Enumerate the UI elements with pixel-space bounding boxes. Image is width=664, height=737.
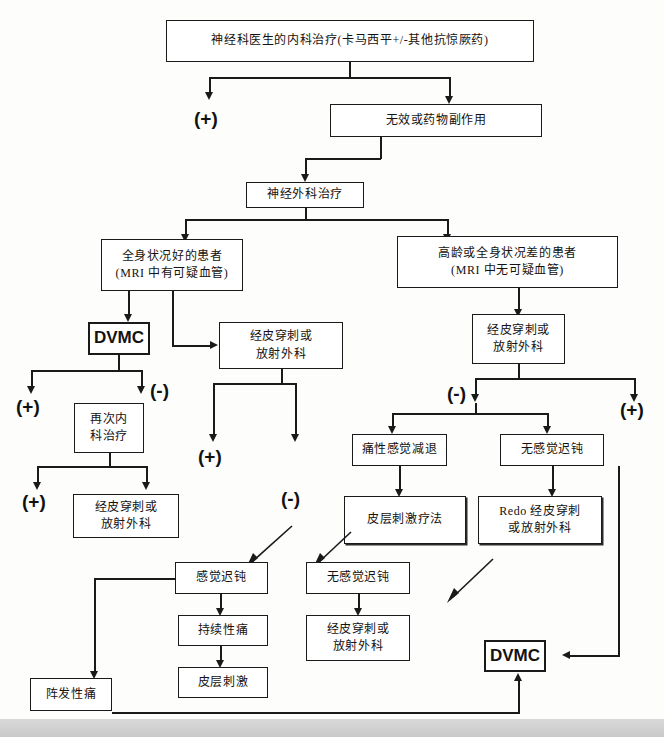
arrowhead-to-plus-top (205, 92, 213, 100)
arrowhead-repeat-percutaneous (142, 482, 150, 490)
connector-repeat-to-plus (37, 466, 39, 483)
connector-percutaneous-right-down (518, 364, 520, 379)
node-cortical-stimulation: 皮层刺激 (178, 667, 268, 698)
connector-no-sensory-lower-down (358, 594, 360, 609)
connector-dvmc-to-plus (31, 370, 33, 387)
connector-title-to-ineffective (449, 77, 451, 97)
node-sensory-dullness: 感觉迟钝 (175, 562, 268, 594)
connector-good-patient-right-down (172, 291, 174, 346)
node-good-condition-patient: 全身状况好的患者 (MRI 中有可疑血管) (101, 239, 243, 291)
connector-right-to-plus (634, 378, 636, 395)
connector-to-neurosurgical (305, 158, 307, 175)
connector-persistent-pain-down (220, 646, 222, 661)
connector-to-no-sensory-upper (547, 413, 549, 427)
connector-bottom-feedback-up (518, 681, 520, 713)
connector-repeat-to-percutaneous (146, 466, 148, 483)
arrowhead-repeat-plus (33, 482, 41, 490)
connector-sensory-dullness-down (220, 594, 222, 609)
arrowhead-right-minus (471, 394, 479, 402)
connector-no-sensory-upper-down (552, 466, 554, 490)
sign-minus-mid: (-) (281, 489, 300, 508)
arrowhead-to-no-sensory-upper (543, 426, 551, 434)
connector-percutaneous-right-split (475, 378, 634, 380)
node-percutaneous-right: 经皮穿刺或 放射外科 (472, 314, 565, 364)
arrowhead-dvmc-plus (27, 386, 35, 394)
connector-repeat-split (37, 466, 147, 468)
connector-to-painful-anesthesia (392, 413, 394, 427)
connector-dvmc-to-minus (141, 370, 143, 387)
arrowhead-mid-plus (209, 434, 217, 442)
connector-percutaneous-left-down (281, 369, 283, 384)
arrowhead-to-percutaneous-left (210, 341, 218, 349)
arrowhead-to-painful-anesthesia (388, 426, 396, 434)
connector-bottom-feedback (112, 712, 520, 714)
arrowhead-into-dvmc-right (562, 651, 570, 659)
node-percutaneous-left: 经皮穿刺或 放射外科 (219, 322, 343, 369)
connector-right-into-dvmc (570, 655, 620, 657)
node-redo-percutaneous: Redo 经皮穿刺 或放射外科 (478, 496, 602, 544)
connector-elderly-down (518, 288, 520, 310)
arrowhead-dvmc-minus (137, 386, 145, 394)
connector-painful-down (399, 466, 401, 490)
node-painful-anesthesia: 痛性感觉减退 (352, 434, 447, 466)
connector-left-down-to-paroxysmal (94, 578, 96, 672)
node-repeat-medical: 再次内 科治疗 (74, 403, 144, 453)
arrowhead-to-neurosurgical (301, 174, 309, 182)
sign-minus-after-dvmc: (-) (150, 381, 169, 400)
sign-minus-right: (-) (447, 384, 466, 403)
node-medical-treatment: 神经科医生的内科治疗(卡马西平+/-其他抗惊厥药) (166, 20, 534, 62)
connector-repeat-down (109, 453, 111, 467)
connector-minus-right-split (392, 413, 548, 415)
page-edge-strip (0, 719, 664, 737)
node-no-sensory-dullness-lower: 无感觉迟钝 (306, 562, 410, 594)
arrowhead-to-dvmc-top (124, 314, 132, 322)
connector-dvmc-split (31, 370, 142, 372)
node-neurosurgical-treatment: 神经外科治疗 (246, 182, 364, 208)
sign-plus-after-dvmc: (+) (16, 397, 40, 416)
node-dvmc-bottom: DVMC (484, 640, 546, 672)
connector-to-elderly-patient (447, 219, 449, 235)
connector-right-to-minus (475, 378, 477, 395)
node-ineffective-side-effects: 无效或药物副作用 (330, 104, 542, 137)
connector-patients-split (185, 219, 447, 221)
sign-plus-mid: (+) (198, 447, 222, 466)
connector-title-split (209, 77, 450, 79)
connector-sensory-to-left (94, 578, 176, 580)
connector-plus-right-long-down (618, 466, 620, 656)
sign-plus-right: (+) (620, 400, 644, 419)
arrowhead-mid-minus (291, 434, 299, 442)
node-percutaneous-lower: 经皮穿刺或 放射外科 (306, 615, 410, 661)
connector-title-to-plus (209, 77, 211, 93)
arrowhead-bottom-into-dvmc (514, 673, 522, 681)
connector-title-down (349, 62, 351, 78)
connector-percutaneous-left-split (213, 383, 296, 385)
node-paroxysmal-pain: 阵发性痛 (30, 678, 112, 711)
sign-plus-after-repeat: (+) (22, 492, 46, 511)
node-no-sensory-dullness-upper: 无感觉迟钝 (500, 434, 604, 466)
connector-percutaneous-left-minus (295, 383, 297, 435)
connector-good-patient-to-percutaneous (172, 345, 212, 347)
arrowhead-to-ineffective (445, 96, 453, 104)
flowchart-canvas: 神经科医生的内科治疗(卡马西平+/-其他抗惊厥药) (+) 无效或药物副作用 神… (0, 0, 664, 737)
connector-ineffective-down (380, 137, 382, 159)
node-dvmc-top: DVMC (88, 322, 150, 355)
diagonal-arrow-to-dvmc-bottom (435, 555, 505, 615)
connector-to-good-patient (185, 219, 187, 235)
sign-plus-top-left: (+) (194, 109, 218, 128)
connector-ineffective-left (305, 158, 381, 160)
connector-good-patient-down (128, 291, 130, 315)
node-percutaneous-after-repeat: 经皮穿刺或 放射外科 (73, 494, 179, 538)
node-persistent-pain: 持续性痛 (178, 615, 268, 646)
node-elderly-poor-condition-patient: 高龄或全身状况差的患者 (MRI 中无可疑血管) (397, 236, 618, 288)
connector-dvmc-top-down (118, 355, 120, 371)
connector-percutaneous-left-plus (213, 383, 215, 435)
